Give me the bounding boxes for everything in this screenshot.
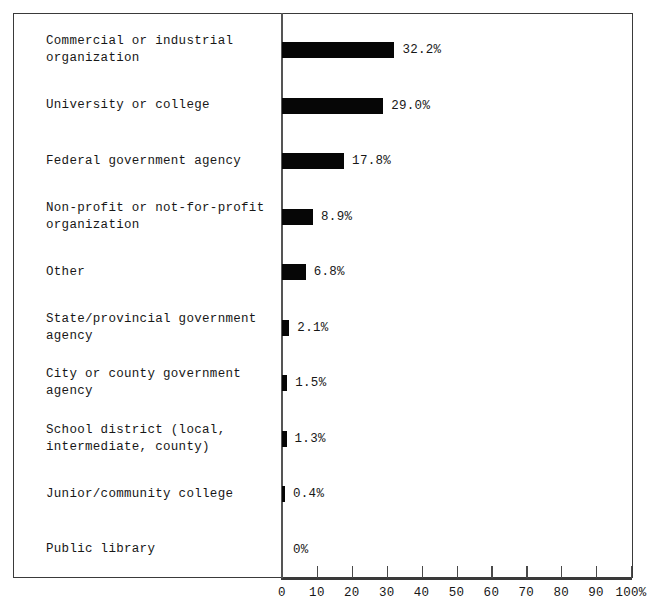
bar-row: Other6.8% — [0, 244, 652, 300]
bar — [282, 98, 383, 114]
bar-row: University or college29.0% — [0, 78, 652, 134]
bar-value-label: 0.4% — [293, 486, 324, 502]
category-label: Junior/community college — [46, 486, 274, 503]
bar-value-label: 17.8% — [352, 153, 391, 169]
x-axis-tick — [317, 566, 318, 578]
bar — [282, 375, 287, 391]
category-label: State/provincial government agency — [46, 311, 274, 345]
value-axis-line — [281, 578, 632, 580]
bar — [282, 431, 287, 447]
x-axis-tick-label: 40 — [414, 586, 430, 601]
bar-row: School district (local, intermediate, co… — [0, 411, 652, 467]
bar-row: State/provincial government agency2.1% — [0, 300, 652, 356]
x-axis-tick-label: 70 — [518, 586, 534, 601]
x-axis-tick-label: 100% — [615, 586, 646, 601]
bar — [282, 264, 306, 280]
bar-value-label: 29.0% — [391, 98, 430, 114]
bar-row: Public library0% — [0, 522, 652, 578]
bar-row: Federal government agency17.8% — [0, 133, 652, 189]
x-axis-tick-label: 0 — [278, 586, 286, 601]
bar — [282, 42, 394, 58]
category-label: Commercial or industrial organization — [46, 33, 274, 67]
x-axis-tick — [561, 566, 562, 578]
category-label: Other — [46, 264, 274, 281]
bar-value-label: 1.5% — [295, 375, 326, 391]
x-axis-tick — [526, 566, 527, 578]
x-axis-tick-label: 30 — [379, 586, 395, 601]
x-axis-tick-label: 80 — [553, 586, 569, 601]
bar — [282, 153, 344, 169]
bar — [282, 486, 285, 502]
category-label: Federal government agency — [46, 153, 274, 170]
bar — [282, 320, 289, 336]
x-axis-tick — [631, 566, 632, 578]
x-axis-tick — [457, 566, 458, 578]
category-label: Public library — [46, 541, 274, 558]
x-axis-tick — [422, 566, 423, 578]
x-axis-tick-label: 20 — [344, 586, 360, 601]
bar-value-label: 32.2% — [402, 42, 441, 58]
bar-value-label: 2.1% — [297, 320, 328, 336]
bar-row: Junior/community college0.4% — [0, 466, 652, 522]
category-label: School district (local, intermediate, co… — [46, 422, 274, 456]
x-axis-tick — [596, 566, 597, 578]
x-axis-tick — [352, 566, 353, 578]
bar-row: Commercial or industrial organization32.… — [0, 22, 652, 78]
bar-row: City or county government agency1.5% — [0, 355, 652, 411]
bar — [282, 209, 313, 225]
bar-value-label: 6.8% — [314, 264, 345, 280]
x-axis-tick-label: 90 — [588, 586, 604, 601]
x-axis-tick-label: 10 — [309, 586, 325, 601]
x-axis-tick — [387, 566, 388, 578]
category-label: Non-profit or not-for-profit organizatio… — [46, 200, 274, 234]
bar-row: Non-profit or not-for-profit organizatio… — [0, 189, 652, 245]
category-label: University or college — [46, 97, 274, 114]
x-axis-tick-label: 60 — [484, 586, 500, 601]
x-axis-tick-label: 50 — [449, 586, 465, 601]
x-axis-tick — [491, 566, 492, 578]
bar-value-label: 1.3% — [295, 431, 326, 447]
bar-value-label: 0% — [293, 542, 309, 558]
bar-value-label: 8.9% — [321, 209, 352, 225]
horizontal-bar-chart: Commercial or industrial organization32.… — [0, 0, 652, 613]
category-label: City or county government agency — [46, 366, 274, 400]
